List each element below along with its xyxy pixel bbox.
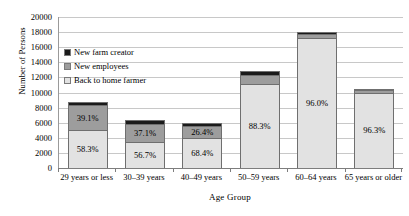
x-axis-category-label: 29 years or less [60,172,113,182]
y-tick-label: 8000 [14,103,52,112]
bar-value-label: 68.4% [191,149,213,158]
bar-value-label: 37.1% [134,129,156,138]
bars-layer: 39.1%58.3%37.1%56.7%26.4%68.4%88.3%96.0%… [59,17,403,168]
bar-group[interactable]: 96.0% [288,17,345,168]
y-tick-label: 12000 [14,73,52,82]
bar-group[interactable]: 37.1%56.7% [116,17,173,168]
stacked-bar[interactable]: 88.3% [240,71,280,168]
legend-label: New farm creator [74,48,134,57]
x-axis-category-label: 30–39 years [123,172,164,182]
bar-value-label: 96.3% [363,126,385,135]
bar-segment[interactable] [241,75,279,84]
y-tick-label: 6000 [14,118,52,127]
x-axis-labels: 29 years or less30–39 years40–49 years50… [58,172,402,186]
bar-group[interactable]: 26.4%68.4% [174,17,231,168]
stacked-bar[interactable]: 39.1%58.3% [68,102,108,168]
bar-value-label: 26.4% [191,128,213,137]
x-axis-category-label: 40–49 years [181,172,222,182]
bar-segment[interactable]: 26.4% [183,126,221,138]
y-tick-label: 16000 [14,43,52,52]
bar-value-label: 96.0% [306,99,328,108]
legend-item[interactable]: New employees [64,60,168,73]
stacked-bar[interactable]: 96.0% [297,32,337,168]
bar-segment[interactable]: 58.3% [69,130,107,168]
bar-chart: Number of Persons 2000018000160001400012… [0,0,409,216]
stacked-bar[interactable]: 37.1%56.7% [125,120,165,168]
legend-item[interactable]: New farm creator [64,46,168,59]
x-axis-category-label: 50–59 years [238,172,279,182]
bar-value-label: 39.1% [77,114,99,123]
plot-area: 39.1%58.3%37.1%56.7%26.4%68.4%88.3%96.0%… [58,17,403,169]
x-axis-title: Age Group [58,192,402,202]
y-tick-label: 14000 [14,58,52,67]
y-tick-label: 4000 [14,133,52,142]
legend-swatch-icon [64,63,71,70]
bar-segment[interactable]: 56.7% [126,142,164,168]
bar-group[interactable]: 39.1%58.3% [59,17,116,168]
legend-label: New employees [74,62,129,71]
y-tick-label: 18000 [14,28,52,37]
legend-label: Back to home farmer [74,76,146,85]
bar-group[interactable]: 88.3% [231,17,288,168]
bar-value-label: 58.3% [77,145,99,154]
y-tick-label: 0 [14,164,52,173]
legend-swatch-icon [64,49,71,56]
stacked-bar[interactable]: 96.3% [354,89,394,168]
stacked-bar[interactable]: 26.4%68.4% [182,123,222,168]
x-axis-category-label: 60–64 years [295,172,336,182]
legend-item[interactable]: Back to home farmer [64,74,168,87]
bar-group[interactable]: 96.3% [346,17,403,168]
bar-segment[interactable]: 88.3% [241,84,279,168]
legend-swatch-icon [64,77,71,84]
y-tick-label: 20000 [14,13,52,22]
y-axis-ticks: 2000018000160001400012000100008000600040… [14,17,52,168]
y-tick-label: 2000 [14,148,52,157]
bar-value-label: 88.3% [249,122,271,131]
chart-legend: New farm creatorNew employeesBack to hom… [64,46,168,88]
bar-segment[interactable]: 37.1% [126,124,164,141]
bar-segment[interactable]: 96.3% [355,93,393,168]
bar-segment[interactable]: 68.4% [183,138,221,168]
x-axis-category-label: 65 years or older [345,172,402,182]
y-tick-label: 10000 [14,88,52,97]
bar-segment[interactable]: 39.1% [69,105,107,130]
bar-value-label: 56.7% [134,151,156,160]
bar-segment[interactable]: 96.0% [298,38,336,168]
